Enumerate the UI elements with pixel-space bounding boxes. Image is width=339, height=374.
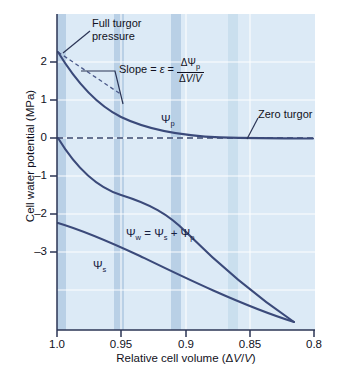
slope-den-delta: Δ xyxy=(179,73,186,84)
slope-den-v2: V xyxy=(195,73,202,84)
y-axis-title: Cell water potential (MPa) xyxy=(24,31,36,281)
slope-numerator: ΔΨp xyxy=(177,57,204,72)
curve-label-psi-w: Ψw = Ψs + Ψp xyxy=(126,227,194,242)
slope-num-delta: Δ xyxy=(181,57,188,68)
x-tick-label: 0.9 xyxy=(166,338,206,350)
psi-p-symbol: Ψ xyxy=(161,113,171,125)
psi-w-s-symbol: Ψ xyxy=(154,227,164,239)
y-axis-ticks xyxy=(50,62,57,252)
full-turgor-line1: Full turgor xyxy=(92,17,142,30)
y-tick-label: 2 xyxy=(21,55,47,67)
slope-prefix: Slope = xyxy=(119,63,160,75)
figure-cell-water-potential: Cell water potential (MPa) 2 1 0 –1 –2 –… xyxy=(0,0,339,374)
y-tick-label: 0 xyxy=(21,131,47,143)
y-tick-label: –3 xyxy=(21,245,47,257)
x-tick-label: 0.95 xyxy=(101,338,141,350)
x-title-pre: Relative cell volume ( xyxy=(116,352,225,364)
psi-w-symbol: Ψ xyxy=(126,227,136,239)
x-tick-label: 0.8 xyxy=(294,338,334,350)
y-tick-label: –1 xyxy=(21,169,47,181)
annotation-zero-turgor: Zero turgor xyxy=(258,108,312,121)
psi-w-equals: = xyxy=(141,227,154,239)
x-tick-label: 1.0 xyxy=(37,338,77,350)
curve-label-psi-p: Ψp xyxy=(161,113,175,128)
psi-s-symbol: Ψ xyxy=(93,259,103,271)
slope-fraction: ΔΨpΔV/V xyxy=(177,57,204,84)
x-axis-ticks xyxy=(57,330,314,337)
y-tick-label: 1 xyxy=(21,93,47,105)
psi-w-p-symbol: Ψ xyxy=(181,227,191,239)
x-tick-label: 0.85 xyxy=(230,338,270,350)
psi-w-p-subscript: p xyxy=(190,233,194,242)
annotation-slope-epsilon: Slope = ε = ΔΨpΔV/V xyxy=(119,57,204,84)
full-turgor-line2: pressure xyxy=(92,30,142,43)
x-axis-title: Relative cell volume (ΔV/V) xyxy=(57,352,315,364)
annotation-full-turgor-pressure: Full turgor pressure xyxy=(92,17,142,42)
curve-label-psi-s: Ψs xyxy=(93,259,106,274)
slope-num-sub: p xyxy=(196,62,200,71)
psi-w-plus: + xyxy=(168,227,181,239)
psi-s-subscript: s xyxy=(103,265,107,274)
y-tick-label: –2 xyxy=(21,207,47,219)
slope-denominator: ΔV/V xyxy=(177,72,204,84)
slope-num-psi: Ψ xyxy=(188,57,196,68)
slope-equals: = xyxy=(165,63,178,75)
x-title-post: ) xyxy=(252,352,256,364)
x-title-v1: V xyxy=(233,352,241,364)
x-title-v2: V xyxy=(244,352,252,364)
psi-p-subscript: p xyxy=(171,119,175,128)
